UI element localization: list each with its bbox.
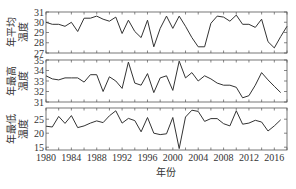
y-tick-label: 30: [34, 17, 44, 28]
y-label-top-line2: 温度: [17, 22, 29, 42]
y-label-middle-line1: 年最高: [5, 66, 17, 96]
panel-top: 2728293031: [34, 7, 287, 59]
series-line-top: [46, 15, 287, 48]
y-label-bottom: 年最低 温度: [5, 114, 29, 144]
y-label-top: 年平均 温度: [5, 17, 29, 47]
panel-frame: [46, 12, 287, 53]
y-label-top-line1: 年平均: [5, 17, 17, 47]
x-tick-label: 2008: [214, 152, 234, 163]
x-tick-label: 1980: [36, 152, 56, 163]
series-line-middle: [46, 61, 281, 98]
y-tick-label: 20: [34, 128, 44, 139]
y-tick-label: 34: [34, 65, 44, 76]
y-tick-label: 28: [34, 37, 44, 48]
y-label-middle: 年最高 温度: [5, 66, 29, 96]
panel-bottom: 152025: [34, 108, 287, 153]
x-axis-label: 年份: [156, 166, 176, 178]
chart-figure: 2728293031313233343515202519801984198819…: [0, 0, 296, 189]
y-tick-label: 32: [34, 86, 44, 97]
series-line-bottom: [46, 110, 281, 148]
x-tick-label: 2016: [264, 152, 284, 163]
y-tick-label: 25: [34, 114, 44, 125]
x-tick-label: 1984: [61, 152, 81, 163]
y-tick-label: 33: [34, 76, 44, 87]
x-tick-label: 1992: [112, 152, 132, 163]
panel-middle: 3132333435: [34, 55, 287, 108]
x-tick-label: 2004: [188, 152, 208, 163]
x-tick-label: 2000: [163, 152, 183, 163]
y-label-bottom-line2: 温度: [17, 119, 29, 139]
x-tick-label: 2012: [239, 152, 259, 163]
y-label-bottom-line1: 年最低: [5, 114, 17, 144]
y-tick-label: 29: [34, 27, 44, 38]
y-tick-label: 35: [34, 55, 44, 66]
x-tick-label: 1988: [87, 152, 107, 163]
y-tick-label: 31: [34, 97, 44, 108]
panel-frame: [46, 108, 287, 150]
y-label-middle-line2: 温度: [17, 71, 29, 91]
x-tick-label: 1996: [137, 152, 157, 163]
y-tick-label: 31: [34, 7, 44, 18]
